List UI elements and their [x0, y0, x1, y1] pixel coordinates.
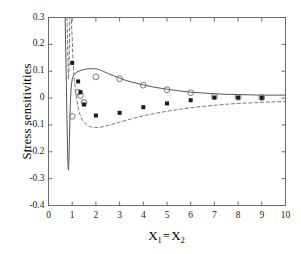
x-label-var2: X: [171, 228, 180, 243]
plot-frame: [49, 18, 286, 206]
x-label-sub2: 2: [181, 235, 185, 245]
chart-figure: Stress sensitivities X1=X2 0.30.20.10-0.…: [0, 0, 301, 254]
y-tick-label: 0.3: [6, 13, 45, 23]
x-label-var1: X: [148, 228, 157, 243]
y-tick-label: -0.4: [6, 201, 45, 211]
tick-marks: [49, 18, 286, 206]
y-axis-title: Stress sensitivities: [20, 32, 35, 192]
data-point-filled-squares: [82, 103, 86, 107]
y-tick-label: 0.2: [6, 39, 45, 49]
x-label-sub1: 1: [158, 235, 162, 245]
data-point-filled-squares: [212, 96, 216, 100]
data-point-filled-squares: [141, 105, 145, 109]
data-point-open-circles: [93, 74, 99, 80]
data-point-filled-squares: [165, 101, 169, 105]
data-point-filled-squares: [189, 98, 193, 102]
data-point-filled-squares: [260, 96, 264, 100]
x-tick-label: 10: [272, 211, 300, 221]
series-layer: [65, 18, 285, 171]
data-point-filled-squares: [70, 61, 74, 65]
data-point-filled-squares: [236, 96, 240, 100]
y-tick-label: -0.2: [6, 147, 45, 157]
x-label-equals: =: [162, 228, 171, 243]
y-tick-label: -0.3: [6, 174, 45, 184]
y-tick-label: 0: [6, 93, 45, 103]
x-axis-title: X1=X2: [48, 228, 285, 244]
series-solid-curve: [65, 18, 285, 171]
series-dashed-curve: [67, 18, 286, 128]
data-point-filled-squares: [76, 79, 80, 83]
y-tick-label: 0.1: [6, 66, 45, 76]
data-point-filled-squares: [118, 111, 122, 115]
y-tick-label: -0.1: [6, 120, 45, 130]
data-point-filled-squares: [94, 114, 98, 118]
data-point-filled-squares: [79, 90, 83, 94]
